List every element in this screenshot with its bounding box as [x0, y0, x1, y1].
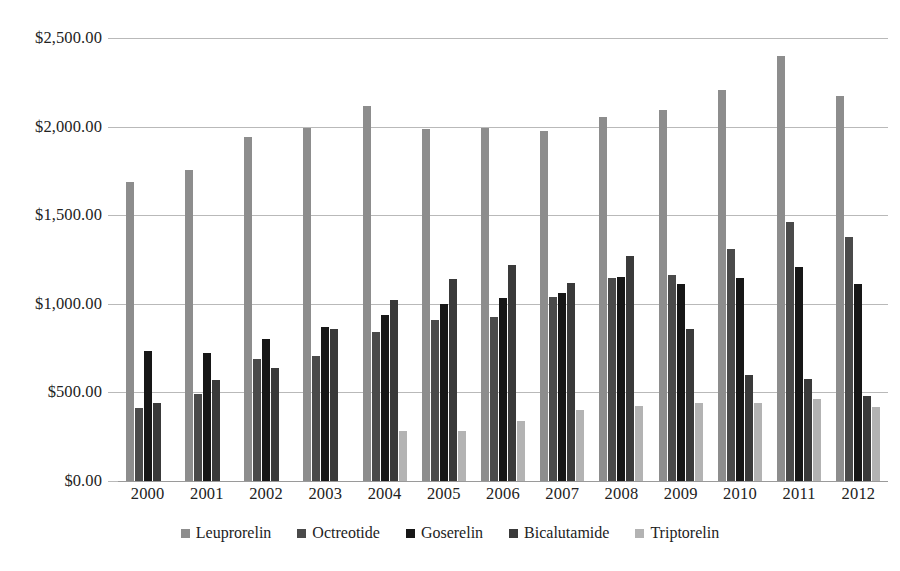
bar: [736, 278, 744, 481]
bar: [212, 380, 220, 481]
bar: [390, 300, 398, 481]
bar: [795, 267, 803, 481]
bar: [185, 170, 193, 481]
bar-group: [829, 38, 888, 481]
y-axis-tick-label: $500.00: [48, 382, 102, 402]
x-axis-tick-label: 2004: [355, 484, 414, 510]
bar: [253, 359, 261, 481]
legend-label: Goserelin: [421, 524, 483, 542]
y-axis-tick-label: $2,000.00: [35, 117, 102, 137]
bar: [786, 222, 794, 481]
bar: [668, 275, 676, 481]
bar: [872, 407, 880, 481]
bar: [449, 279, 457, 481]
y-axis-tick-mark: [108, 304, 118, 305]
legend-item[interactable]: Goserelin: [406, 524, 483, 542]
legend-swatch-icon: [635, 529, 644, 538]
bar: [312, 356, 320, 481]
y-axis-labels: $2,500.00$2,000.00$1,500.00$1,000.00$500…: [0, 38, 110, 481]
bar: [194, 394, 202, 481]
bar-groups: [118, 38, 888, 481]
bar: [777, 56, 785, 481]
x-axis-tick-label: 2005: [414, 484, 473, 510]
bar: [754, 403, 762, 481]
legend-swatch-icon: [406, 529, 415, 538]
bar: [540, 131, 548, 481]
bar: [372, 332, 380, 481]
bar: [576, 410, 584, 481]
bar-group: [651, 38, 710, 481]
bar: [490, 317, 498, 481]
bar: [599, 117, 607, 481]
legend-item[interactable]: Triptorelin: [635, 524, 719, 542]
bar: [422, 129, 430, 481]
y-axis-tick-mark: [108, 127, 118, 128]
legend-swatch-icon: [509, 529, 518, 538]
bar-group: [296, 38, 355, 481]
bar: [440, 304, 448, 481]
bar: [608, 278, 616, 481]
y-axis-tick-label: $1,000.00: [35, 294, 102, 314]
bar: [845, 237, 853, 481]
bar: [363, 106, 371, 481]
axis-baseline: [118, 481, 888, 482]
bar: [381, 315, 389, 481]
x-axis-tick-label: 2009: [651, 484, 710, 510]
bar: [431, 320, 439, 481]
bar: [626, 256, 634, 481]
bar: [558, 293, 566, 481]
bar: [262, 339, 270, 481]
bar: [727, 249, 735, 481]
bar: [695, 403, 703, 481]
legend: LeuprorelinOctreotideGoserelinBicalutami…: [0, 524, 900, 542]
bar-group: [592, 38, 651, 481]
x-axis-tick-label: 2001: [177, 484, 236, 510]
bar: [203, 353, 211, 481]
legend-item[interactable]: Leuprorelin: [181, 524, 272, 542]
bar: [813, 399, 821, 481]
x-axis-tick-label: 2006: [473, 484, 532, 510]
bar: [458, 431, 466, 481]
bar: [135, 408, 143, 481]
legend-label: Triptorelin: [650, 524, 719, 542]
y-axis-tick-label: $0.00: [64, 471, 102, 491]
bar: [659, 110, 667, 481]
bar: [854, 284, 862, 481]
bar-group: [473, 38, 532, 481]
bar-group: [177, 38, 236, 481]
legend-item[interactable]: Bicalutamide: [509, 524, 609, 542]
x-axis-tick-label: 2000: [118, 484, 177, 510]
bar-group: [533, 38, 592, 481]
legend-label: Bicalutamide: [524, 524, 609, 542]
bar: [549, 297, 557, 481]
bar: [863, 396, 871, 481]
bar: [330, 329, 338, 481]
bar: [481, 128, 489, 482]
bar-group: [414, 38, 473, 481]
bar-group: [236, 38, 295, 481]
bar: [804, 379, 812, 481]
plot-area: [118, 38, 888, 481]
bar-group: [118, 38, 177, 481]
x-axis-labels: 2000200120022003200420052006200720082009…: [118, 484, 888, 510]
bar-group: [355, 38, 414, 481]
bar: [244, 137, 252, 481]
x-axis-tick-label: 2002: [236, 484, 295, 510]
bar: [836, 96, 844, 481]
y-axis-tick-mark: [108, 215, 118, 216]
x-axis-tick-label: 2010: [710, 484, 769, 510]
legend-swatch-icon: [181, 529, 190, 538]
bar: [508, 265, 516, 481]
bar: [635, 406, 643, 481]
bar-chart: $2,500.00$2,000.00$1,500.00$1,000.00$500…: [0, 0, 900, 571]
x-axis-tick-label: 2007: [533, 484, 592, 510]
bar-group: [710, 38, 769, 481]
bar: [745, 375, 753, 481]
bar: [153, 403, 161, 481]
legend-item[interactable]: Octreotide: [297, 524, 380, 542]
bar: [126, 182, 134, 481]
bar: [271, 368, 279, 481]
bar: [144, 351, 152, 481]
bar: [677, 284, 685, 481]
bar: [499, 298, 507, 481]
